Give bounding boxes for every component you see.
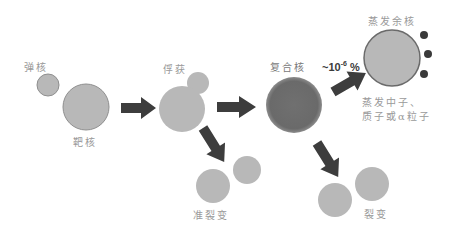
- evaporation-residue-nucleus: [364, 30, 420, 86]
- capture-label: 俘获: [163, 64, 187, 76]
- compound-nucleus-label: 复合核: [270, 62, 306, 74]
- probability-label: ~10-6 %: [322, 60, 360, 73]
- emitted-particle-dot: [424, 50, 432, 58]
- captured-large-nucleus: [159, 86, 205, 132]
- arrow-right-icon: [217, 96, 256, 118]
- projectile-nucleus: [37, 74, 59, 96]
- compound-nucleus: [266, 77, 322, 133]
- evaporation-residue-label: 蒸发余核: [368, 16, 416, 28]
- evaporate-particles-label-line1: 蒸发中子、: [362, 97, 422, 109]
- emitted-particle-dot: [420, 70, 428, 78]
- projectile-label: 弹核: [24, 62, 48, 74]
- quasi-fission-label: 准裂变: [193, 210, 229, 222]
- emitted-particle-dot: [420, 31, 428, 39]
- fission-fragment: [318, 183, 352, 217]
- fission-fragment: [355, 167, 389, 201]
- arrow-down-right-icon: [308, 137, 348, 183]
- quasi-fission-fragment: [196, 169, 230, 203]
- target-nucleus: [63, 84, 109, 130]
- evaporate-particles-label-line2: 质子或α粒子: [362, 111, 431, 123]
- quasi-fission-fragment: [233, 156, 261, 184]
- fission-label: 裂变: [364, 209, 388, 221]
- target-label: 靶核: [73, 137, 97, 149]
- arrow-right-icon: [121, 97, 156, 119]
- arrow-down-right-icon: [194, 122, 234, 168]
